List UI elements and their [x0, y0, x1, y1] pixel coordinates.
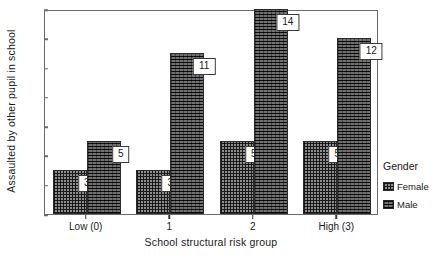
x-tick-mark: [169, 215, 171, 219]
y-tick-mark: [44, 185, 48, 187]
x-tick-label: High (3): [291, 221, 381, 232]
y-axis-title: Assaulted by other pupil in school: [5, 8, 17, 214]
x-tick-mark: [85, 215, 87, 219]
legend-swatch-male-icon: [383, 200, 394, 209]
figure-caption: [0, 255, 435, 263]
legend-item-female: Female: [383, 181, 435, 192]
legend-label-female: Female: [397, 181, 429, 192]
y-tick-mark: [44, 126, 48, 128]
bar-male-high-3-: [337, 38, 371, 214]
x-tick-label: 1: [124, 221, 214, 232]
y-tick-mark: [44, 9, 48, 11]
bar-male-2: [254, 9, 288, 214]
legend: Gender Female Male: [383, 160, 435, 217]
bar-value-label: 5: [112, 146, 130, 163]
legend-swatch-female-icon: [383, 182, 394, 191]
y-tick-mark: [44, 68, 48, 70]
chart-figure: Assaulted by other pupil in school 35311…: [0, 0, 435, 263]
plot-inner: 35311514512: [45, 11, 377, 214]
legend-item-male: Male: [383, 199, 435, 210]
legend-label-male: Male: [397, 199, 418, 210]
x-tick-mark: [252, 215, 254, 219]
y-tick-mark: [44, 214, 48, 216]
bar-value-label: 12: [360, 43, 383, 60]
x-axis-title: School structural risk group: [44, 236, 378, 248]
x-tick-mark: [336, 215, 338, 219]
x-tick-label: Low (0): [41, 221, 131, 232]
y-tick-mark: [44, 156, 48, 158]
bar-male-1: [170, 53, 204, 214]
y-tick-mark: [44, 97, 48, 99]
bar-value-label: 14: [276, 14, 299, 31]
y-tick-mark: [44, 39, 48, 41]
x-tick-label: 2: [208, 221, 298, 232]
bar-value-label: 11: [193, 58, 215, 75]
legend-title: Gender: [383, 160, 435, 172]
plot-area: 35311514512: [44, 10, 378, 215]
